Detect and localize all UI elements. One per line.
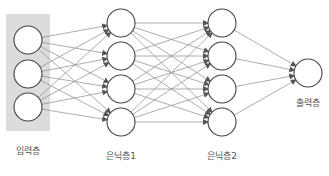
- neural-network-diagram: [0, 0, 329, 176]
- hidden2-node-3: [208, 75, 236, 103]
- hidden2-node-4: [208, 108, 236, 136]
- input-node-2: [14, 60, 42, 88]
- output-layer-label: 출력층: [296, 96, 320, 109]
- hidden-layer-2-label: 은닉층2: [207, 149, 237, 162]
- input-node-3: [14, 93, 42, 121]
- connection-edge: [42, 92, 108, 105]
- connection-edge: [236, 59, 295, 71]
- connection-edge: [40, 63, 108, 101]
- nodes: [14, 9, 322, 136]
- input-layer-label: 입력층: [16, 144, 40, 157]
- connection-edge: [40, 30, 108, 68]
- output-node-1: [294, 59, 322, 87]
- hidden2-node-2: [208, 42, 236, 70]
- connections: [38, 23, 296, 122]
- hidden1-node-3: [107, 75, 135, 103]
- hidden-layer-1-label: 은닉층1: [106, 149, 136, 162]
- connection-edge: [42, 109, 107, 120]
- hidden1-node-2: [107, 42, 135, 70]
- connection-edge: [236, 76, 294, 87]
- hidden1-node-4: [107, 108, 135, 136]
- hidden1-node-1: [107, 9, 135, 37]
- hidden2-node-1: [208, 9, 236, 37]
- input-node-1: [14, 26, 42, 54]
